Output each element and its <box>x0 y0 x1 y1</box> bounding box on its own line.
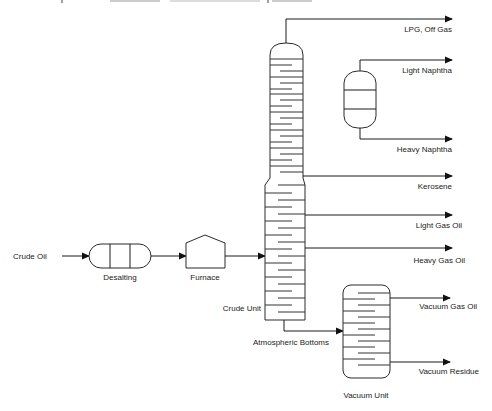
desalting-vessel: Desalting <box>89 244 151 282</box>
kerosene-label: Kerosene <box>418 182 453 191</box>
atmospheric-bottoms-label: Atmospheric Bottoms <box>253 338 329 347</box>
cut-off-caption <box>62 0 312 3</box>
stream-heavy-naphtha: Heavy Naphtha <box>360 128 453 154</box>
light-gas-oil-label: Light Gas Oil <box>416 221 462 230</box>
crude-oil-label: Crude Oil <box>13 252 47 261</box>
vacuum-residue-label: Vacuum Residue <box>419 367 480 376</box>
vacuum-unit-column: Vacuum Unit <box>343 285 390 400</box>
heavy-gas-oil-label: Heavy Gas Oil <box>413 256 465 265</box>
furnace-label: Furnace <box>190 273 220 282</box>
stream-light-gas-oil: Light Gas Oil <box>305 215 462 230</box>
desalting-label: Desalting <box>103 273 136 282</box>
stream-lpg-off-gas: LPG, Off Gas <box>286 19 452 43</box>
crude-unit-column: Crude Unit <box>223 43 305 320</box>
stream-vacuum-residue: Vacuum Residue <box>390 362 480 376</box>
vacuum-unit-label: Vacuum Unit <box>343 391 389 400</box>
crude-oil-feed: Crude Oil <box>13 252 89 261</box>
lpg-label: LPG, Off Gas <box>404 25 452 34</box>
naphtha-splitter <box>344 71 376 128</box>
stream-heavy-gas-oil: Heavy Gas Oil <box>305 248 465 265</box>
stream-atmospheric-bottoms: Atmospheric Bottoms <box>253 320 343 347</box>
stream-light-naphtha: Light Naphtha <box>360 60 453 75</box>
crude-unit-label: Crude Unit <box>223 304 262 313</box>
refinery-flow-diagram: Crude Oil Desalting Furnace <box>0 0 492 411</box>
stream-kerosene: Kerosene <box>303 176 453 191</box>
stream-vacuum-gas-oil: Vacuum Gas Oil <box>390 298 477 311</box>
heavy-naphtha-label: Heavy Naphtha <box>397 145 453 154</box>
furnace: Furnace <box>186 235 225 282</box>
vacuum-gas-oil-label: Vacuum Gas Oil <box>419 302 477 311</box>
light-naphtha-label: Light Naphtha <box>402 66 452 75</box>
